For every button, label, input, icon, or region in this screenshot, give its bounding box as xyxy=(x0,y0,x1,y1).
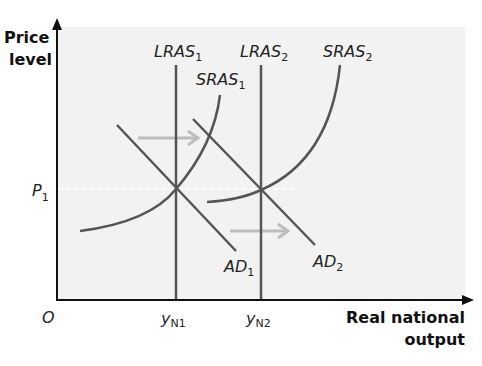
x-axis-title-line2: output xyxy=(404,330,465,349)
sras2-label: SRAS2 xyxy=(323,42,372,64)
yn1-label: yN1 xyxy=(160,309,186,330)
chart: Price level Real national output O P1 yN… xyxy=(0,0,482,366)
yn2-label: yN2 xyxy=(245,309,271,330)
x-axis-arrow-icon xyxy=(462,295,474,305)
y-axis-title-line1: Price xyxy=(4,28,50,47)
origin-label: O xyxy=(42,308,55,327)
y-axis-title-line2: level xyxy=(9,50,52,69)
lras1-label: LRAS1 xyxy=(154,42,202,64)
lras2-label: LRAS2 xyxy=(240,42,288,64)
y-axis-arrow-icon xyxy=(52,18,62,30)
x-axis-title-line1: Real national xyxy=(346,308,465,327)
p1-label: P1 xyxy=(32,181,49,204)
sras1-label: SRAS1 xyxy=(196,70,245,92)
